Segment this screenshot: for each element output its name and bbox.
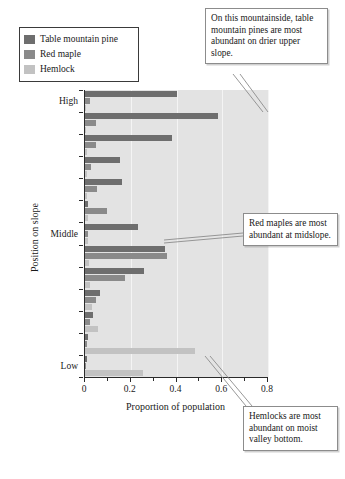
- x-minor-tick: [244, 378, 245, 381]
- bar: [85, 363, 86, 369]
- legend-swatch: [24, 35, 35, 44]
- annotation-maple: Red maples are most abundant at midslope…: [243, 213, 338, 246]
- x-tick-label: 0.6: [215, 384, 227, 394]
- x-minor-tick: [107, 378, 108, 381]
- y-tick: [79, 333, 83, 334]
- y-tick: [79, 267, 83, 268]
- y-tick: [79, 200, 83, 201]
- bar: [85, 120, 96, 126]
- bar: [85, 149, 87, 155]
- y-tick: [79, 222, 83, 223]
- y-tick-label: Low: [38, 361, 78, 371]
- bar: [85, 260, 89, 266]
- bar: [85, 290, 100, 296]
- y-tick-label: High: [38, 96, 78, 106]
- y-axis-label: Position on slope: [29, 178, 40, 298]
- y-tick: [79, 112, 83, 113]
- x-tick: [176, 378, 177, 382]
- y-tick: [79, 90, 83, 91]
- bar: [85, 224, 138, 230]
- bar: [85, 253, 167, 259]
- y-tick: [79, 311, 83, 312]
- legend-item-label: Hemlock: [40, 65, 75, 75]
- bar: [85, 186, 97, 192]
- bar: [85, 334, 88, 340]
- x-minor-tick: [198, 378, 199, 381]
- x-tick-label: 0.2: [124, 384, 136, 394]
- legend-swatch: [24, 65, 35, 74]
- bar: [85, 231, 88, 237]
- x-tick-label: 0: [82, 384, 87, 394]
- legend-item-1: Red maple: [24, 47, 133, 62]
- x-tick-label: 0.8: [261, 384, 273, 394]
- bar: [85, 201, 88, 207]
- x-tick: [267, 378, 268, 382]
- y-tick: [79, 156, 83, 157]
- bar: [85, 348, 195, 354]
- x-tick: [84, 378, 85, 382]
- bar: [85, 246, 165, 252]
- bar: [85, 326, 98, 332]
- bar: [85, 113, 218, 119]
- bar: [85, 319, 90, 325]
- y-tick: [79, 377, 83, 378]
- x-minor-tick: [153, 378, 154, 381]
- chart-legend: Table mountain pineRed mapleHemlock: [19, 27, 139, 82]
- gridline: [222, 90, 223, 377]
- y-tick-label: Middle: [38, 229, 78, 239]
- bar: [85, 275, 125, 281]
- bar: [85, 142, 96, 148]
- y-tick: [79, 134, 83, 135]
- legend-item-2: Hemlock: [24, 62, 133, 77]
- bar: [85, 268, 144, 274]
- bar: [85, 215, 88, 221]
- y-tick: [79, 178, 83, 179]
- bar: [85, 157, 120, 163]
- y-tick: [79, 355, 83, 356]
- bar: [85, 370, 143, 376]
- bar: [85, 98, 90, 104]
- x-tick-label: 0.4: [170, 384, 182, 394]
- bar: [85, 127, 86, 133]
- bar: [85, 238, 88, 244]
- bar: [85, 164, 91, 170]
- annotation-hemlock: Hemlocks are most abundant on moist vall…: [243, 406, 338, 451]
- bar: [85, 105, 86, 111]
- x-axis-label: Proportion of population: [84, 401, 267, 412]
- legend-item-label: Table mountain pine: [40, 35, 118, 45]
- chart-figure: Table mountain pineRed mapleHemlock 00.2…: [0, 0, 345, 479]
- bar: [85, 171, 87, 177]
- bar: [85, 297, 96, 303]
- bar: [85, 179, 122, 185]
- x-tick: [130, 378, 131, 382]
- legend-item-0: Table mountain pine: [24, 32, 133, 47]
- plot-area: [84, 90, 268, 378]
- bar: [85, 208, 107, 214]
- annotation-pine: On this mountainside, table mountain pin…: [205, 8, 328, 64]
- legend-item-label: Red maple: [40, 50, 81, 60]
- bar: [85, 356, 87, 362]
- legend-swatch: [24, 50, 35, 59]
- bar: [85, 135, 172, 141]
- y-tick: [79, 289, 83, 290]
- bar: [85, 312, 93, 318]
- bar: [85, 91, 177, 97]
- bar: [85, 282, 90, 288]
- bar: [85, 304, 92, 310]
- gridline: [177, 90, 178, 377]
- bar: [85, 341, 87, 347]
- y-tick: [79, 245, 83, 246]
- bar: [85, 193, 87, 199]
- gridline: [131, 90, 132, 377]
- x-tick: [221, 378, 222, 382]
